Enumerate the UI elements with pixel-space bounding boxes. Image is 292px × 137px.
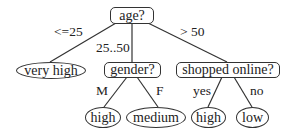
node-label: medium: [133, 111, 179, 125]
node-label: age?: [119, 9, 145, 23]
node-label: very high: [24, 64, 77, 78]
node-label: high: [91, 111, 116, 125]
node-label: shopped online?: [182, 63, 273, 77]
node-label: low: [242, 111, 263, 125]
node-age: age?: [110, 7, 154, 24]
node-gender: gender?: [104, 62, 161, 78]
node-shopped-online: shopped online?: [176, 62, 280, 78]
branch-label-no: no: [250, 84, 264, 98]
leaf-high-yes: high: [191, 107, 226, 128]
leaf-high-m: high: [85, 107, 121, 128]
leaf-very-high: very high: [16, 62, 86, 79]
branch-label-yes: yes: [193, 84, 211, 98]
branch-label-le25: <=25: [54, 25, 83, 39]
branch-label-gt50: > 50: [180, 25, 205, 39]
leaf-low: low: [236, 107, 269, 128]
branch-label-25-50: 25..50: [96, 41, 130, 55]
leaf-medium: medium: [126, 107, 186, 128]
node-label: gender?: [110, 63, 154, 77]
branch-label-m: M: [96, 84, 108, 98]
edge-gender-medium: [137, 77, 158, 107]
node-label: high: [196, 111, 221, 125]
branch-label-f: F: [156, 84, 164, 98]
